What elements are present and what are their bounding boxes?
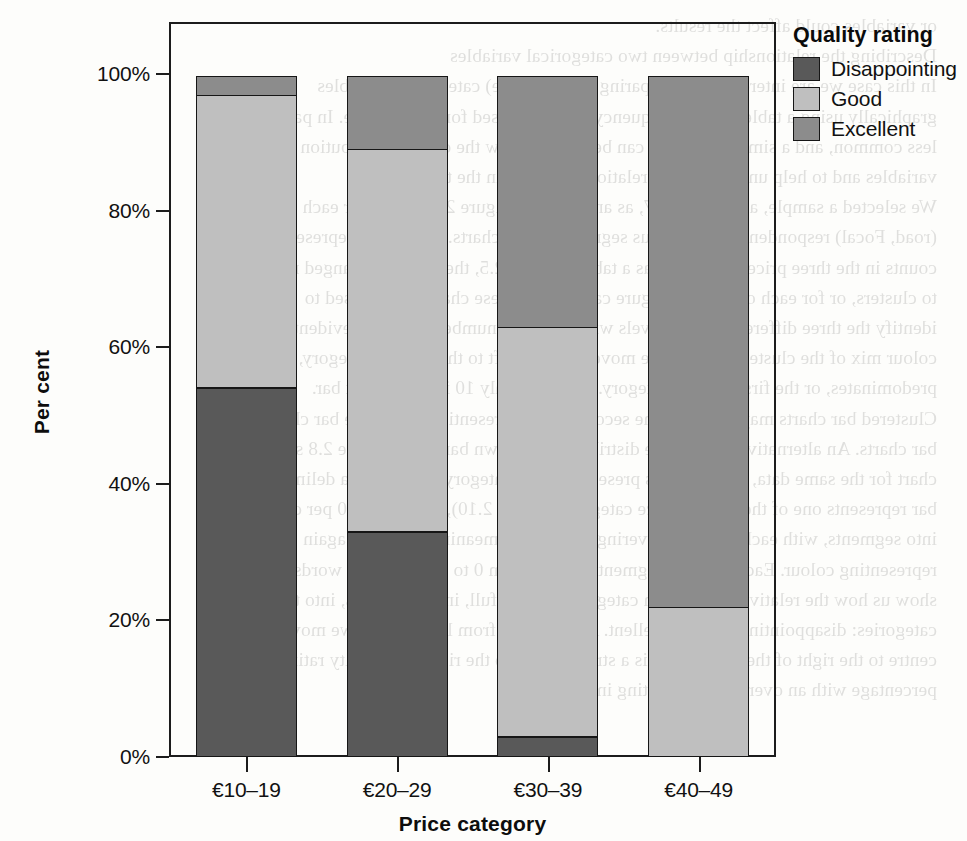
bar-segment-disappointing xyxy=(497,737,598,757)
bar-segment-disappointing xyxy=(196,388,297,757)
bar-segment-excellent xyxy=(347,76,448,151)
bar-segment-disappointing xyxy=(347,532,448,757)
x-axis-title: Price category xyxy=(171,812,774,836)
y-tick-label: 60% xyxy=(58,335,150,359)
legend-swatch-icon xyxy=(793,117,820,141)
y-axis-tick-labels: 0%20%40%60%80%100% xyxy=(55,74,150,757)
y-axis-title: Per cent xyxy=(30,312,54,472)
chart-page: or variables could affect the results.De… xyxy=(0,0,967,841)
y-tick-mark xyxy=(156,483,169,485)
legend-swatch-icon xyxy=(793,57,820,81)
legend: Quality rating DisappointingGoodExcellen… xyxy=(793,23,957,141)
stacked-bar xyxy=(347,74,448,757)
y-tick-mark xyxy=(156,73,169,75)
x-tick-mark xyxy=(397,757,399,772)
x-axis-ticks xyxy=(171,757,774,773)
legend-title: Quality rating xyxy=(793,23,957,48)
legend-items: DisappointingGoodExcellent xyxy=(793,57,957,141)
y-tick-mark xyxy=(156,756,169,758)
x-tick-mark xyxy=(246,757,248,772)
stacked-bar-plot xyxy=(171,74,774,757)
y-axis-ticks xyxy=(156,74,169,757)
bar-segment-excellent xyxy=(648,76,749,609)
y-tick-label: 40% xyxy=(58,472,150,496)
y-tick-label: 20% xyxy=(58,608,150,632)
bar-segment-good xyxy=(648,607,749,757)
stacked-bar xyxy=(648,74,749,757)
x-tick-label: €10–19 xyxy=(171,778,321,802)
legend-swatch-icon xyxy=(793,87,820,111)
bar-segment-excellent xyxy=(497,76,598,329)
bar-segment-good xyxy=(347,149,448,531)
y-tick-mark xyxy=(156,210,169,212)
stacked-bar xyxy=(196,74,297,757)
legend-item: Disappointing xyxy=(793,57,957,81)
y-tick-label: 100% xyxy=(58,62,150,86)
x-axis-tick-labels: €10–19€20–29€30–39€40–49 xyxy=(171,778,774,808)
x-tick-label: €40–49 xyxy=(624,778,774,802)
y-tick-mark xyxy=(156,619,169,621)
y-tick-label: 0% xyxy=(58,745,150,769)
x-tick-mark xyxy=(548,757,550,772)
legend-label: Disappointing xyxy=(831,57,957,81)
legend-label: Good xyxy=(831,87,882,111)
legend-label: Excellent xyxy=(831,117,915,141)
x-tick-mark xyxy=(699,757,701,772)
legend-item: Good xyxy=(793,87,957,111)
bar-segment-good xyxy=(196,95,297,389)
legend-item: Excellent xyxy=(793,117,957,141)
bar-segment-good xyxy=(497,327,598,737)
stacked-bar xyxy=(497,74,598,757)
y-tick-mark xyxy=(156,346,169,348)
y-tick-label: 80% xyxy=(58,199,150,223)
x-tick-label: €30–39 xyxy=(473,778,623,802)
bar-segment-excellent xyxy=(196,76,297,96)
x-tick-label: €20–29 xyxy=(322,778,472,802)
